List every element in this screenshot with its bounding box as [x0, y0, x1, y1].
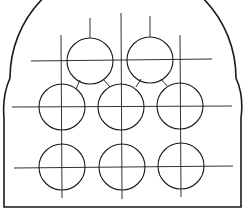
centerline-vertical-center	[121, 13, 122, 199]
cross-section-diagram	[0, 0, 244, 210]
link-top-left-to-middle-center	[103, 79, 110, 87]
centerline-vertical-left	[61, 35, 62, 198]
circle-top-left	[67, 38, 113, 84]
centerline-horizontal-bottom	[14, 166, 233, 168]
centerline-horizontal-middle	[12, 106, 232, 107]
